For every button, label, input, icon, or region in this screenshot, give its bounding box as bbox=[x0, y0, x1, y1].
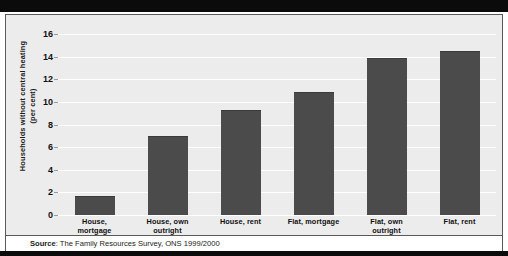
x-axis-label: House, ownoutright bbox=[131, 217, 204, 235]
chart-panel: Households without central heating (per … bbox=[5, 14, 503, 236]
plot-area: 0246810121416 bbox=[58, 23, 496, 215]
y-axis-title-line-1: Households without central heating bbox=[18, 41, 28, 171]
y-axis-tick-label: 4 bbox=[48, 165, 53, 175]
bar-slot bbox=[277, 23, 350, 215]
x-axis-label: Flat, rent bbox=[423, 217, 496, 226]
y-axis-tick-label: 10 bbox=[43, 97, 53, 107]
x-axis-label: House, rent bbox=[204, 217, 277, 226]
x-axis-label-line: House, rent bbox=[204, 217, 277, 226]
x-axis-label-line: Flat, mortgage bbox=[277, 217, 350, 226]
source-note-text: Source: The Family Resources Survey, ONS… bbox=[6, 239, 220, 248]
y-axis-tick-label: 16 bbox=[43, 29, 53, 39]
y-axis-title-line-2: (per cent) bbox=[28, 88, 38, 123]
bar-slot bbox=[423, 23, 496, 215]
x-axis-label: Flat, mortgage bbox=[277, 217, 350, 226]
plot-wrapper: Households without central heating (per … bbox=[6, 15, 502, 235]
x-axis-label-line: outright bbox=[350, 226, 423, 235]
x-axis-label: House,mortgage bbox=[58, 217, 131, 235]
bar[interactable] bbox=[221, 110, 261, 215]
x-axis-label-line: House, own bbox=[131, 217, 204, 226]
bars-layer bbox=[58, 23, 496, 215]
gridline bbox=[58, 215, 496, 216]
x-axis-label-line: House, bbox=[58, 217, 131, 226]
y-axis-tick-label: 8 bbox=[48, 120, 53, 130]
bar[interactable] bbox=[367, 58, 407, 215]
x-axis-label-line: Flat, rent bbox=[423, 217, 496, 226]
bar-slot bbox=[350, 23, 423, 215]
y-axis-title: Households without central heating (per … bbox=[15, 21, 41, 191]
bar-slot bbox=[58, 23, 131, 215]
bottom-black-bar bbox=[0, 251, 508, 256]
y-axis-tick-mark bbox=[54, 215, 58, 216]
source-value: The Family Resources Survey, ONS 1999/20… bbox=[60, 239, 220, 248]
bar[interactable] bbox=[148, 136, 188, 215]
bar[interactable] bbox=[75, 196, 115, 215]
x-axis-label-line: outright bbox=[131, 226, 204, 235]
chart-figure: Households without central heating (per … bbox=[0, 0, 508, 256]
y-axis-tick-label: 12 bbox=[43, 74, 53, 84]
top-black-bar bbox=[0, 0, 508, 12]
bar-slot bbox=[131, 23, 204, 215]
source-note: Source: The Family Resources Survey, ONS… bbox=[5, 236, 503, 251]
bar[interactable] bbox=[440, 51, 480, 215]
y-axis-tick-label: 0 bbox=[48, 210, 53, 220]
bar[interactable] bbox=[294, 92, 334, 215]
x-axis-label-line: mortgage bbox=[58, 226, 131, 235]
y-axis-tick-label: 2 bbox=[48, 187, 53, 197]
y-axis-tick-label: 14 bbox=[43, 52, 53, 62]
bar-slot bbox=[204, 23, 277, 215]
source-label: Source bbox=[30, 239, 56, 248]
x-axis-label: Flat, ownoutright bbox=[350, 217, 423, 235]
y-axis-tick-label: 6 bbox=[48, 142, 53, 152]
x-axis-label-line: Flat, own bbox=[350, 217, 423, 226]
